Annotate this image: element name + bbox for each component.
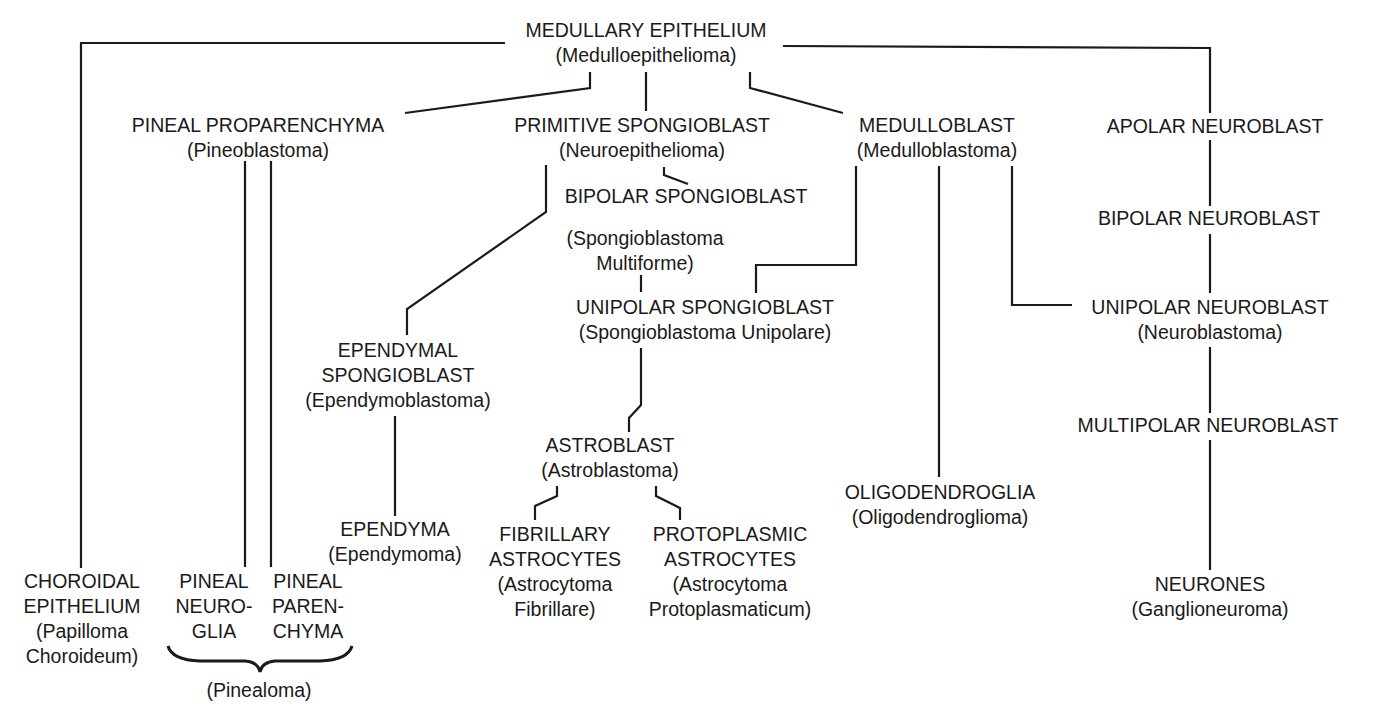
pinealoma-brace bbox=[168, 646, 352, 672]
tumour-label: (Medulloepithelioma) bbox=[526, 43, 767, 68]
node-oligodendroglia: OLIGODENDROGLIA (Oligodendroglioma) bbox=[845, 480, 1036, 530]
cell-label: MULTIPOLAR NEUROBLAST bbox=[1078, 413, 1339, 438]
node-pineal-parenchyma: PINEAL PAREN- CHYMA bbox=[272, 569, 344, 644]
tumour-label: (Ganglioneuroma) bbox=[1131, 597, 1288, 622]
cell-label-line1: CHOROIDAL bbox=[23, 569, 140, 594]
tumour-label-line1: (Astrocytoma bbox=[649, 572, 812, 597]
cell-label: EPENDYMA bbox=[328, 517, 461, 542]
node-bipolar-neuroblast: BIPOLAR NEUROBLAST bbox=[1098, 206, 1320, 231]
cell-label: UNIPOLAR NEUROBLAST bbox=[1091, 295, 1328, 320]
cell-label-line2: EPITHELIUM bbox=[23, 594, 140, 619]
edge-astroblast-to-fibrillary bbox=[535, 486, 557, 520]
cell-label: UNIPOLAR SPONGIOBLAST bbox=[576, 295, 834, 320]
edge-medullary-to-apolar bbox=[783, 46, 1210, 113]
tumour-label-line1: (Astrocytoma bbox=[489, 572, 621, 597]
node-bipolar-spongioblast-cell: BIPOLAR SPONGIOBLAST bbox=[565, 184, 808, 209]
cell-label-line1: EPENDYMAL bbox=[305, 338, 490, 363]
cell-label: BIPOLAR SPONGIOBLAST bbox=[565, 184, 808, 209]
node-astroblast: ASTROBLAST (Astroblastoma) bbox=[541, 433, 679, 483]
tumour-label: (Medulloblastoma) bbox=[857, 138, 1017, 163]
tumour-label: (Neuroblastoma) bbox=[1091, 320, 1328, 345]
cell-label: BIPOLAR NEUROBLAST bbox=[1098, 206, 1320, 231]
node-pineal-neuroglia: PINEAL NEURO- GLIA bbox=[176, 569, 253, 644]
edge-medulloblast-to-unipolar-neuroblast bbox=[1012, 166, 1072, 305]
label-line3: GLIA bbox=[176, 619, 253, 644]
node-ependymal-spongioblast: EPENDYMAL SPONGIOBLAST (Ependymoblastoma… bbox=[305, 338, 490, 413]
tumour-label: (Neuroepithelioma) bbox=[514, 138, 770, 163]
tumour-label: (Oligodendroglioma) bbox=[845, 505, 1036, 530]
tumour-label-line1: (Spongioblastoma bbox=[566, 226, 723, 251]
edge-medullary-to-pineal-proparenchyma bbox=[405, 72, 590, 113]
cell-label-line1: FIBRILLARY bbox=[489, 522, 621, 547]
node-unipolar-spongioblast: UNIPOLAR SPONGIOBLAST (Spongioblastoma U… bbox=[576, 295, 834, 345]
node-medulloblast: MEDULLOBLAST (Medulloblastoma) bbox=[857, 113, 1017, 163]
node-medullary-epithelium: MEDULLARY EPITHELIUM (Medulloepithelioma… bbox=[526, 18, 767, 68]
cell-label-line2: SPONGIOBLAST bbox=[305, 363, 490, 388]
node-pineal-proparenchyma: PINEAL PROPARENCHYMA (Pineoblastoma) bbox=[132, 113, 384, 163]
tumour-label-line2: Choroideum) bbox=[23, 644, 140, 669]
node-unipolar-neuroblast: UNIPOLAR NEUROBLAST (Neuroblastoma) bbox=[1091, 295, 1328, 345]
pinealoma-label: (Pinealoma) bbox=[206, 678, 311, 703]
label-line2: PAREN- bbox=[272, 594, 344, 619]
tumour-label: (Ependymoblastoma) bbox=[305, 388, 490, 413]
cell-label: PRIMITIVE SPONGIOBLAST bbox=[514, 113, 770, 138]
cell-label: MEDULLARY EPITHELIUM bbox=[526, 18, 767, 43]
cell-label: NEURONES bbox=[1131, 572, 1288, 597]
cell-label-line2: ASTROCYTES bbox=[649, 547, 812, 572]
node-protoplasmic-astrocytes: PROTOPLASMIC ASTROCYTES (Astrocytoma Pro… bbox=[649, 522, 812, 622]
tumour-label: (Astroblastoma) bbox=[541, 458, 679, 483]
tumour-label-line1: (Papilloma bbox=[23, 619, 140, 644]
node-ependyma: EPENDYMA (Ependymoma) bbox=[328, 517, 461, 567]
label-line1: PINEAL bbox=[272, 569, 344, 594]
edge-primitive-to-bipolar-spongioblast bbox=[664, 167, 688, 184]
cell-label: MEDULLOBLAST bbox=[857, 113, 1017, 138]
label-line2: NEURO- bbox=[176, 594, 253, 619]
tumour-label: (Pineoblastoma) bbox=[132, 138, 384, 163]
node-choroidal-epithelium: CHOROIDAL EPITHELIUM (Papilloma Choroide… bbox=[23, 569, 140, 669]
brace-label: (Pinealoma) bbox=[206, 678, 311, 703]
edge-primitive-to-ependymal bbox=[407, 165, 546, 335]
cell-label: PINEAL PROPARENCHYMA bbox=[132, 113, 384, 138]
tumour-label: (Spongioblastoma Unipolare) bbox=[576, 320, 834, 345]
tumour-label-line2: Multiforme) bbox=[566, 251, 723, 276]
cell-label: ASTROBLAST bbox=[541, 433, 679, 458]
label-line3: CHYMA bbox=[272, 619, 344, 644]
node-apolar-neuroblast: APOLAR NEUROBLAST bbox=[1107, 114, 1324, 139]
cell-label: APOLAR NEUROBLAST bbox=[1107, 114, 1324, 139]
edge-unipolar-spongioblast-to-astroblast bbox=[629, 348, 641, 432]
cell-label-line2: ASTROCYTES bbox=[489, 547, 621, 572]
node-primitive-spongioblast: PRIMITIVE SPONGIOBLAST (Neuroepithelioma… bbox=[514, 113, 770, 163]
edge-astroblast-to-protoplasmic bbox=[656, 486, 680, 520]
tumour-label-line2: Fibrillare) bbox=[489, 597, 621, 622]
cell-label-line1: PROTOPLASMIC bbox=[649, 522, 812, 547]
cell-label: OLIGODENDROGLIA bbox=[845, 480, 1036, 505]
histogenesis-diagram: MEDULLARY EPITHELIUM (Medulloepithelioma… bbox=[0, 0, 1379, 707]
node-fibrillary-astrocytes: FIBRILLARY ASTROCYTES (Astrocytoma Fibri… bbox=[489, 522, 621, 622]
edge-medullary-to-medulloblast bbox=[750, 72, 843, 113]
tumour-label: (Ependymoma) bbox=[328, 542, 461, 567]
tumour-label-line2: Protoplasmaticum) bbox=[649, 597, 812, 622]
node-bipolar-spongioblast-tumour: (Spongioblastoma Multiforme) bbox=[566, 226, 723, 276]
label-line1: PINEAL bbox=[176, 569, 253, 594]
node-neurones: NEURONES (Ganglioneuroma) bbox=[1131, 572, 1288, 622]
node-multipolar-neuroblast: MULTIPOLAR NEUROBLAST bbox=[1078, 413, 1339, 438]
